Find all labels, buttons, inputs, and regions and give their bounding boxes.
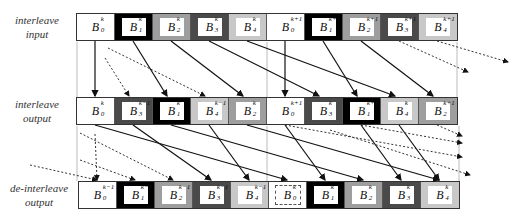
- block-subscript: 1: [141, 194, 145, 202]
- block-letter: Bk+14: [434, 20, 441, 35]
- block-letter: Bk+13: [396, 20, 403, 35]
- block-subscript: 3: [405, 26, 409, 34]
- block-subscript: 3: [329, 110, 333, 118]
- block-letter: Bk3: [206, 20, 213, 35]
- block-symbol: Bk+12: [426, 102, 450, 120]
- deinterleave-output-cell: Bk−13: [193, 182, 231, 208]
- block-subscript: 0: [101, 26, 105, 34]
- block-symbol: Bk−14: [238, 186, 262, 204]
- block-superscript: k: [253, 99, 256, 107]
- block-letter: Bk4: [244, 20, 251, 35]
- block-symbol: Bk2: [236, 102, 260, 120]
- deinterleave-output-cell: Bk−11: [117, 182, 155, 208]
- block-superscript: k: [139, 15, 142, 23]
- block-subscript: 3: [217, 194, 221, 202]
- block-symbol: Bk+11: [350, 102, 374, 120]
- block-letter: Bk−14: [206, 104, 213, 119]
- block-letter: Bk+11: [358, 104, 365, 119]
- block-subscript: 1: [367, 110, 371, 118]
- block-subscript: 4: [253, 26, 257, 34]
- block-letter: Bk1: [130, 20, 137, 35]
- block-letter: Bk3: [398, 188, 405, 203]
- block-superscript: k+1: [291, 99, 302, 107]
- interleave-output-cell: Bk+10: [267, 98, 305, 124]
- deinterleave-output-cell: Bk2: [345, 182, 383, 208]
- label-line: de-interleave: [2, 181, 76, 195]
- block-subscript: 4: [445, 194, 449, 202]
- deinterleave-output-cell: Bk0: [269, 182, 307, 208]
- block-subscript: 3: [215, 26, 219, 34]
- block-symbol: Bk1: [160, 102, 184, 120]
- deinterleave-output-row: Bk−10Bk−11Bk−12Bk−13Bk−14Bk0Bk1Bk2Bk3Bk4: [78, 181, 460, 209]
- block-symbol: Bk1: [122, 18, 146, 36]
- block-subscript: 2: [367, 26, 371, 34]
- interleave-output-cell: Bk−13: [115, 98, 153, 124]
- block-letter: Bk−10: [94, 188, 101, 203]
- interleave-output-cell: Bk−14: [191, 98, 229, 124]
- block-letter: Bk0: [92, 104, 99, 119]
- block-symbol: Bk4: [236, 18, 260, 36]
- label-line: interleave: [2, 97, 72, 111]
- block-superscript: k: [101, 15, 104, 23]
- block-superscript: k: [293, 183, 296, 191]
- block-symbol: Bk+11: [312, 18, 336, 36]
- block-superscript: k: [177, 15, 180, 23]
- interleave-output-cell: Bk4: [381, 98, 419, 124]
- block-superscript: k: [177, 99, 180, 107]
- block-letter: Bk−12: [170, 188, 177, 203]
- block-symbol: Bk−12: [162, 186, 186, 204]
- deinterleave-output-cell: Bk3: [383, 182, 421, 208]
- interleave-input-cell: Bk3: [191, 14, 229, 40]
- block-subscript: 2: [369, 194, 373, 202]
- label-line: input: [2, 27, 72, 41]
- block-symbol: Bk−11: [124, 186, 148, 204]
- block-letter: Bk4: [396, 104, 403, 119]
- block-subscript: 0: [291, 26, 295, 34]
- block-symbol: Bk1: [314, 186, 338, 204]
- block-letter: Bk3: [320, 104, 327, 119]
- block-letter: Bk1: [322, 188, 329, 203]
- interleave-input-cell: Bk+11: [305, 14, 343, 40]
- label-interleave-output: interleave output: [2, 97, 72, 125]
- block-letter: Bk2: [360, 188, 367, 203]
- block-subscript: 4: [405, 110, 409, 118]
- block-letter: Bk0: [284, 188, 291, 203]
- block-symbol: Bk−13: [122, 102, 146, 120]
- block-letter: Bk1: [168, 104, 175, 119]
- block-superscript: k: [405, 99, 408, 107]
- block-superscript: k+1: [329, 15, 340, 23]
- interleave-input-row: Bk0Bk1Bk2Bk3Bk4Bk+10Bk+11Bk+12Bk+13Bk+14: [76, 13, 458, 41]
- interleave-input-cell: Bk0: [77, 14, 115, 40]
- block-superscript: k+1: [367, 99, 378, 107]
- block-subscript: 1: [331, 194, 335, 202]
- block-subscript: 4: [215, 110, 219, 118]
- block-superscript: k: [101, 99, 104, 107]
- block-subscript: 0: [101, 110, 105, 118]
- block-superscript: k: [329, 99, 332, 107]
- deinterleave-output-cell: Bk1: [307, 182, 345, 208]
- label-interleave-input: interleave input: [2, 13, 72, 41]
- block-symbol: Bk−10: [86, 186, 110, 204]
- block-superscript: k−1: [103, 183, 114, 191]
- deinterleave-output-cell: Bk−14: [231, 182, 269, 208]
- block-symbol: Bk+10: [274, 18, 298, 36]
- block-symbol: Bk0: [84, 102, 108, 120]
- deinterleave-output-cell: Bk−12: [155, 182, 193, 208]
- block-superscript: k−1: [139, 99, 150, 107]
- block-symbol: Bk0: [275, 185, 301, 205]
- block-symbol: Bk−13: [200, 186, 224, 204]
- label-line: interleave: [2, 13, 72, 27]
- block-subscript: 1: [139, 26, 143, 34]
- block-letter: Bk+10: [282, 20, 289, 35]
- block-letter: Bk−13: [130, 104, 137, 119]
- block-subscript: 1: [329, 26, 333, 34]
- interleave-input-cell: Bk+10: [267, 14, 305, 40]
- block-subscript: 1: [177, 110, 181, 118]
- block-letter: Bk0: [92, 20, 99, 35]
- block-symbol: Bk2: [352, 186, 376, 204]
- block-superscript: k: [445, 183, 448, 191]
- label-line: output: [2, 195, 76, 209]
- interleave-output-cell: Bk2: [229, 98, 267, 124]
- deinterleave-output-cell: Bk4: [421, 182, 459, 208]
- block-letter: Bk+11: [320, 20, 327, 35]
